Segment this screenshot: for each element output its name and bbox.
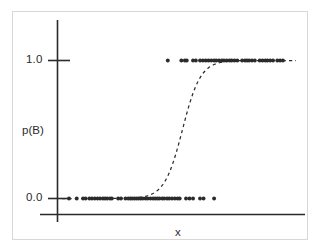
x-axis-title: x — [175, 226, 181, 238]
data-point — [198, 197, 202, 201]
data-point — [178, 197, 182, 201]
data-point — [188, 197, 192, 201]
axis-lines — [40, 20, 305, 222]
y-tick-label-0: 0.0 — [26, 191, 43, 203]
data-point — [119, 197, 123, 201]
data-point — [191, 197, 195, 201]
data-point — [212, 197, 216, 201]
plot-canvas — [0, 0, 320, 252]
scatter-points-layer — [67, 59, 285, 201]
data-point — [184, 197, 188, 201]
data-point — [235, 59, 239, 63]
data-point — [166, 59, 170, 63]
data-point — [67, 197, 71, 201]
data-point — [75, 197, 79, 201]
data-point — [84, 197, 88, 201]
y-axis-title: p(B) — [22, 124, 44, 136]
data-point — [271, 59, 275, 63]
data-point — [253, 59, 257, 63]
chart-figure: 1.0 0.0 p(B) x — [0, 0, 320, 252]
logistic-fit-curve — [62, 61, 296, 199]
data-point — [179, 59, 183, 63]
data-point — [185, 59, 189, 63]
y-axis-ticks — [48, 61, 70, 199]
y-tick-label-1: 1.0 — [26, 53, 43, 65]
data-point — [194, 59, 198, 63]
data-point — [202, 197, 206, 201]
data-point — [281, 59, 285, 63]
data-point — [110, 197, 114, 201]
